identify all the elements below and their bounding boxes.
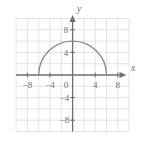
coordinate-plane-svg: −8 −4 0 4 8 8 4 −4 −8 x y [0,0,143,150]
x-tick-label-zero: 0 [64,80,69,90]
y-tick-label-8: 8 [64,25,69,35]
x-tick-label-8: 8 [116,80,121,90]
x-tick-label-neg8: −8 [23,80,33,90]
y-tick-label-4: 4 [64,48,69,58]
x-tick-label-4: 4 [93,80,98,90]
y-axis-label: y [76,4,82,14]
y-tick-label-neg4: −4 [60,93,70,103]
x-tick-label-neg4: −4 [45,80,55,90]
graph-figure: −8 −4 0 4 8 8 4 −4 −8 x y [0,0,143,150]
x-axis-label: x [130,63,136,73]
y-tick-label-neg8: −8 [60,115,70,125]
